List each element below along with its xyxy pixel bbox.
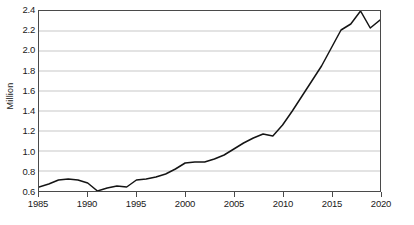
y-axis-tick-label: 1.6 bbox=[22, 86, 35, 96]
x-axis-tick-label: 1990 bbox=[77, 199, 97, 209]
x-axis-tick-label: 2000 bbox=[175, 199, 195, 209]
plot-area bbox=[38, 10, 381, 192]
x-axis-tick-mark bbox=[87, 192, 88, 197]
x-axis-tick-label: 2020 bbox=[371, 199, 391, 209]
x-axis-tick-mark bbox=[381, 192, 382, 197]
y-axis-tick-label: 1.2 bbox=[22, 127, 35, 137]
plot-svg bbox=[39, 11, 380, 191]
x-axis-tick-label: 2015 bbox=[322, 199, 342, 209]
x-axis-tick-label: 2010 bbox=[273, 199, 293, 209]
y-axis-tick-label: 2.4 bbox=[22, 5, 35, 15]
y-axis-tick-label: 2.0 bbox=[22, 46, 35, 56]
x-axis-tick-mark bbox=[185, 192, 186, 197]
y-axis-tick-label: 1.8 bbox=[22, 66, 35, 76]
x-axis-tick-mark bbox=[332, 192, 333, 197]
y-axis-tick-label: 1.4 bbox=[22, 106, 35, 116]
y-axis-tick-label: 0.6 bbox=[22, 187, 35, 197]
series-line bbox=[39, 11, 380, 191]
x-axis-tick-label: 1985 bbox=[28, 199, 48, 209]
x-axis-tick-label: 2005 bbox=[224, 199, 244, 209]
x-axis-tick-labels: 19851990199520002005201020152020 bbox=[0, 199, 414, 217]
y-axis-tick-label: 0.8 bbox=[22, 167, 35, 177]
x-axis-tick-label: 1995 bbox=[126, 199, 146, 209]
y-axis-tick-label: 1.0 bbox=[22, 147, 35, 157]
x-axis-tick-mark bbox=[136, 192, 137, 197]
y-axis-tick-label: 2.2 bbox=[22, 25, 35, 35]
line-chart: Million 2.42.22.01.81.61.41.21.00.80.6 1… bbox=[0, 0, 414, 225]
x-axis-tick-mark bbox=[234, 192, 235, 197]
y-axis-tick-labels: 2.42.22.01.81.61.41.21.00.80.6 bbox=[14, 0, 38, 202]
x-axis-tick-mark bbox=[283, 192, 284, 197]
x-axis-tick-mark bbox=[38, 192, 39, 197]
